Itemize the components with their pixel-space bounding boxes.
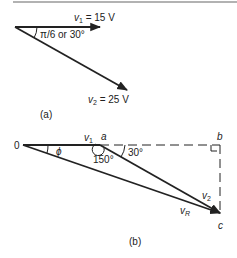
label-v1-a: v1 = 15 V — [74, 12, 115, 24]
caption-b: (b) — [129, 236, 141, 247]
label-v2-a: v2 = 25 V — [88, 94, 129, 106]
label-angle-30: 30° — [128, 147, 143, 158]
phasor-diagram: v1 = 15 V π/6 or 30° v2 = 25 V (a) 0 v1 … — [0, 0, 237, 258]
label-angle-a: π/6 or 30° — [40, 29, 85, 40]
angle-arc-30 — [121, 145, 125, 157]
angle-arc-a — [34, 27, 37, 38]
label-point-b: b — [217, 131, 223, 142]
phasor-vR — [23, 145, 220, 213]
caption-a: (a) — [40, 109, 52, 120]
label-angle-150: 150° — [93, 154, 114, 165]
label-point-c: c — [218, 220, 223, 231]
right-angle-marker — [211, 145, 217, 151]
label-origin: 0 — [14, 140, 20, 151]
label-v1-b: v1 — [84, 132, 93, 144]
phasor-v2-b — [100, 145, 220, 213]
label-phi: ϕ — [56, 146, 62, 157]
label-vR: vR — [180, 205, 190, 217]
figure-a: v1 = 15 V π/6 or 30° v2 = 25 V (a) — [15, 12, 129, 120]
label-point-a: a — [101, 131, 107, 142]
figure-b: 0 v1 a b ϕ 150° 30° v2 vR c (b) — [14, 131, 223, 247]
angle-arc-phi — [47, 145, 48, 153]
label-v2-b: v2 — [202, 190, 211, 202]
